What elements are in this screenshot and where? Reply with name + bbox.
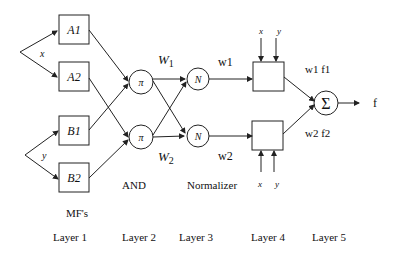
layer-5-label: Layer 5 xyxy=(312,231,346,243)
layer-3-label: Layer 3 xyxy=(179,231,213,243)
node-layer4-2 xyxy=(252,121,283,150)
sigma-label: Σ xyxy=(321,95,330,112)
w1-upper-label: W1 xyxy=(158,52,174,69)
w1f1-label: w1 f1 xyxy=(305,63,330,75)
w2f2-label: w2 f2 xyxy=(305,127,330,139)
n-1-label: N xyxy=(194,74,203,85)
pi-1-label: π xyxy=(138,77,144,88)
l4-top-x-label: x xyxy=(258,26,263,36)
anfis-diagram: x y A1 A2 B1 B2 π π W1 W2 N N w1 w2 x y … xyxy=(0,0,393,257)
w2-upper-label: W2 xyxy=(158,149,174,166)
input-x-label: x xyxy=(39,48,45,59)
pi-2-label: π xyxy=(138,132,144,143)
input-y-label: y xyxy=(41,150,47,161)
layer-2-label: Layer 2 xyxy=(122,231,156,243)
x-to-a2-arrow xyxy=(20,52,57,77)
node-layer4-1 xyxy=(253,62,284,91)
w2-lower-label: w2 xyxy=(218,149,233,163)
l4-top-y-label: y xyxy=(276,26,281,36)
x-to-a1-arrow xyxy=(20,31,57,52)
l4-bottom-y-label: y xyxy=(274,179,279,189)
layer-1-label: Layer 1 xyxy=(53,231,87,243)
and-caption: AND xyxy=(122,179,146,191)
a2-label: A2 xyxy=(66,70,80,84)
l4-bottom-x-label: x xyxy=(257,179,262,189)
b1-label: B1 xyxy=(67,124,80,138)
layer-4-label: Layer 4 xyxy=(251,231,285,243)
mfs-caption: MF's xyxy=(66,207,88,219)
n-2-label: N xyxy=(194,131,203,142)
normalizer-caption: Normalizer xyxy=(187,179,237,191)
a1-label: A1 xyxy=(66,23,80,37)
output-f-label: f xyxy=(373,96,377,110)
w1-lower-label: w1 xyxy=(218,55,233,69)
b2-label: B2 xyxy=(67,171,80,185)
